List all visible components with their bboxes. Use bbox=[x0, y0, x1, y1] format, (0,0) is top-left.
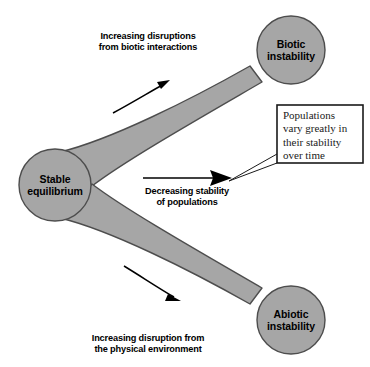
node-label-line: Stable bbox=[10, 173, 100, 185]
callout-text: Populations vary greatly in their stabil… bbox=[283, 109, 363, 163]
callout-text-line: vary greatly in bbox=[283, 122, 363, 135]
node-label-line: Biotic bbox=[246, 38, 336, 50]
node-label-abiotic-instability: Abiotic instability bbox=[246, 308, 336, 332]
center-arrow-label-line: Decreasing stability bbox=[125, 186, 249, 197]
band-label-line: Increasing disruptions bbox=[73, 31, 223, 42]
node-label-line: instability bbox=[246, 50, 336, 62]
node-label-line: Abiotic bbox=[246, 308, 336, 320]
callout-text-line: over time bbox=[283, 149, 363, 162]
stability-continuum-diagram: Stable equilibrium Biotic instability Ab… bbox=[0, 0, 370, 367]
callout-text-line: Populations bbox=[283, 109, 363, 122]
node-label-biotic-instability: Biotic instability bbox=[246, 38, 336, 62]
node-label-line: equilibrium bbox=[10, 185, 100, 197]
upper-flow-arrow bbox=[113, 80, 170, 113]
node-label-line: instability bbox=[246, 320, 336, 332]
node-label-stable-equilibrium: Stable equilibrium bbox=[10, 173, 100, 197]
center-arrow-label-line: of populations bbox=[125, 197, 249, 208]
band-label-line: the physical environment bbox=[68, 344, 228, 355]
center-arrow bbox=[143, 170, 232, 186]
lower-band-label: Increasing disruption from the physical … bbox=[68, 333, 228, 354]
center-arrow-label: Decreasing stability of populations bbox=[125, 186, 249, 207]
upper-band-label: Increasing disruptions from biotic inter… bbox=[73, 31, 223, 52]
lower-flow-arrow bbox=[124, 266, 181, 301]
callout-text-line: their stability bbox=[283, 136, 363, 149]
band-label-line: Increasing disruption from bbox=[68, 333, 228, 344]
callout-leader-lines bbox=[229, 154, 277, 181]
band-label-line: from biotic interactions bbox=[73, 42, 223, 53]
